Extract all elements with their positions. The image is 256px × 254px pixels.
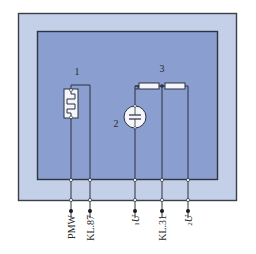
component-3-label: 3 bbox=[160, 63, 165, 74]
terminals bbox=[69, 209, 190, 213]
pin-label-pmw: PMW bbox=[66, 214, 77, 238]
component-1-label: 1 bbox=[75, 66, 80, 77]
circuit-diagram: 1 2 3 bbox=[0, 0, 256, 254]
terminal-u1 bbox=[133, 209, 137, 213]
pin-label-kl31: KL.31 bbox=[157, 215, 168, 241]
terminal-u2 bbox=[186, 209, 190, 213]
pin-labels: PMW KL.87 1U KL.31 2U bbox=[66, 214, 194, 241]
terminal-pmw bbox=[69, 209, 73, 213]
component-2-label: 2 bbox=[114, 118, 119, 129]
pin-label-u1: 1U bbox=[130, 214, 141, 226]
terminal-kl87 bbox=[88, 209, 92, 213]
pin-label-u2: 2U bbox=[183, 214, 194, 226]
terminal-kl31 bbox=[160, 209, 164, 213]
pin-label-kl87: KL.87 bbox=[85, 215, 96, 241]
